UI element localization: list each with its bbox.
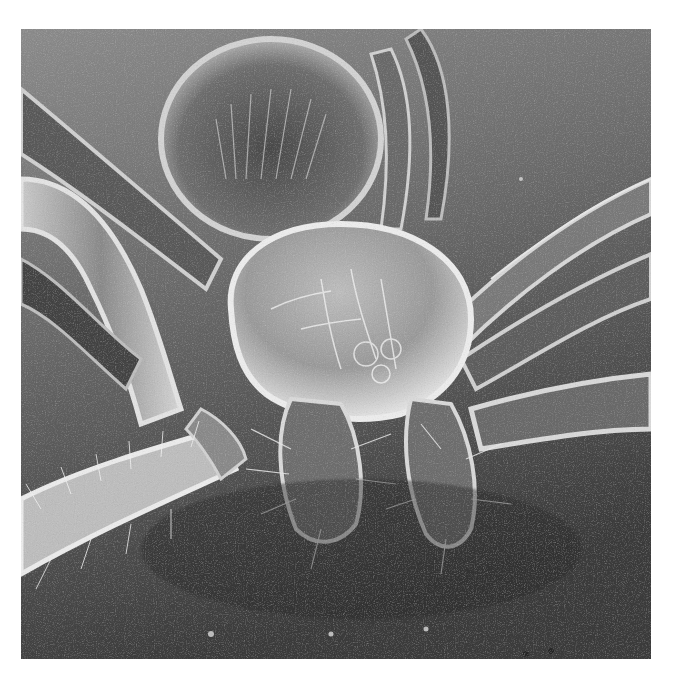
sem-spider-photo: Scanning electron micrograph of a spider… [21,29,651,659]
cephalothorax [231,224,471,419]
spider-illustration [21,29,651,659]
page: Scanning electron micrograph of a spider… [0,0,674,677]
abdomen [161,39,381,239]
